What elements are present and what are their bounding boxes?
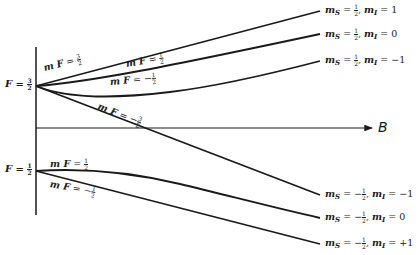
curve-label-mf-1-2-lower: m F = 12 — [50, 158, 88, 171]
axis-label-b: B — [378, 119, 388, 135]
high-field-label-4: mS = −12, mI = −1 — [325, 188, 413, 201]
level-label-f-1-2: F = 12 — [5, 163, 32, 176]
level-label-f-3-2: F = 32 — [5, 78, 32, 91]
high-field-label-5: mS = −12, mI = 0 — [325, 211, 405, 224]
high-field-label-1: mS = 12, mI = 1 — [325, 4, 397, 17]
high-field-label-2: mS = 12, mI = 0 — [325, 28, 397, 41]
high-field-label-6: mS = −12, mI = +1 — [325, 237, 413, 250]
curve-mf-neg3-2 — [36, 86, 320, 195]
curve-mf-3-2 — [36, 11, 320, 86]
high-field-label-3: mS = 12, mI = −1 — [325, 54, 405, 67]
